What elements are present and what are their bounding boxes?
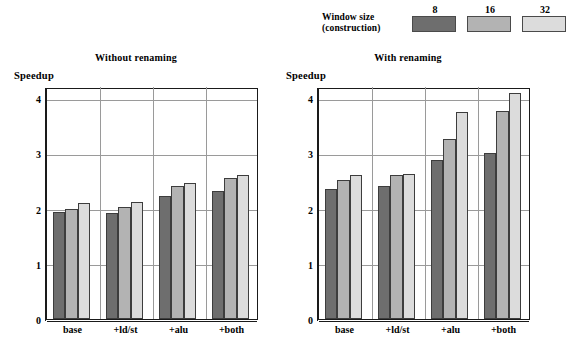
bar-group	[47, 89, 100, 319]
bar-group	[319, 89, 372, 319]
bar	[325, 189, 338, 319]
bar	[378, 186, 391, 319]
chart-title: Without renaming	[0, 52, 272, 63]
y-tick-label: 3	[297, 150, 313, 160]
y-axis-label: Speedup	[286, 70, 326, 81]
bar	[456, 112, 469, 319]
y-tick-label: 1	[25, 261, 41, 271]
plot-inner: 01234	[319, 89, 529, 319]
bar	[443, 139, 456, 319]
bar	[106, 213, 119, 319]
bar-group	[372, 89, 425, 319]
y-tick-label: 3	[25, 150, 41, 160]
y-tick-label: 0	[25, 316, 41, 326]
legend-swatch-16	[467, 16, 511, 32]
y-tick-label: 4	[297, 95, 313, 105]
gridline-0	[47, 321, 257, 322]
bar	[496, 111, 509, 319]
bar-group	[478, 89, 531, 319]
bar	[484, 153, 497, 319]
chart-legend: Window size (construction) 8 16 32	[322, 4, 522, 42]
bar	[403, 174, 416, 319]
legend-title-line1: Window size	[322, 12, 374, 22]
x-tick-label: +ld/st	[371, 324, 424, 335]
bar-group	[206, 89, 259, 319]
x-tick-label: +alu	[152, 324, 205, 335]
bar	[350, 175, 363, 319]
bar-group	[425, 89, 478, 319]
legend-key-label: 8	[412, 4, 458, 15]
bar-group	[100, 89, 153, 319]
bar	[131, 202, 144, 319]
legend-entry-32: 32	[522, 4, 568, 32]
bar	[65, 209, 78, 319]
y-tick-label: 0	[297, 316, 313, 326]
plot-inner: 01234	[47, 89, 257, 319]
legend-entry-16: 16	[467, 4, 513, 32]
plot-area: 01234	[318, 88, 530, 320]
legend-key-label: 16	[467, 4, 513, 15]
y-tick-label: 1	[297, 261, 313, 271]
chart-panel-with-renaming: With renaming Speedup 01234 base+ld/st+a…	[272, 52, 544, 344]
legend-title-line2: (construction)	[322, 23, 412, 34]
x-tick-label: base	[318, 324, 371, 335]
chart-panel-without-renaming: Without renaming Speedup 01234 base+ld/s…	[0, 52, 272, 344]
y-axis-label: Speedup	[14, 70, 54, 81]
chart-title: With renaming	[272, 52, 544, 63]
legend-key-label: 32	[522, 4, 568, 15]
x-tick-label: +ld/st	[99, 324, 152, 335]
y-tick-label: 2	[25, 206, 41, 216]
x-tick-label: +alu	[424, 324, 477, 335]
y-tick-label: 2	[297, 206, 313, 216]
bar	[237, 175, 250, 319]
legend-title: Window size (construction)	[322, 12, 412, 34]
bar	[212, 191, 225, 319]
plot-area: 01234	[46, 88, 258, 320]
y-tick-label: 4	[25, 95, 41, 105]
bar	[171, 186, 184, 319]
bar	[390, 175, 403, 319]
legend-entry-8: 8	[412, 4, 458, 32]
gridline-0	[319, 321, 529, 322]
x-tick-label: +both	[477, 324, 530, 335]
bar	[184, 183, 197, 319]
bar	[159, 196, 172, 319]
bar-group	[153, 89, 206, 319]
legend-swatch-8	[412, 16, 456, 32]
legend-swatch-32	[522, 16, 566, 32]
bar	[509, 93, 522, 319]
bar	[78, 203, 91, 319]
bar	[53, 212, 66, 319]
x-tick-label: +both	[205, 324, 258, 335]
bar	[224, 178, 237, 319]
bar	[337, 180, 350, 319]
bar	[118, 207, 131, 319]
x-tick-label: base	[46, 324, 99, 335]
bar	[431, 160, 444, 319]
